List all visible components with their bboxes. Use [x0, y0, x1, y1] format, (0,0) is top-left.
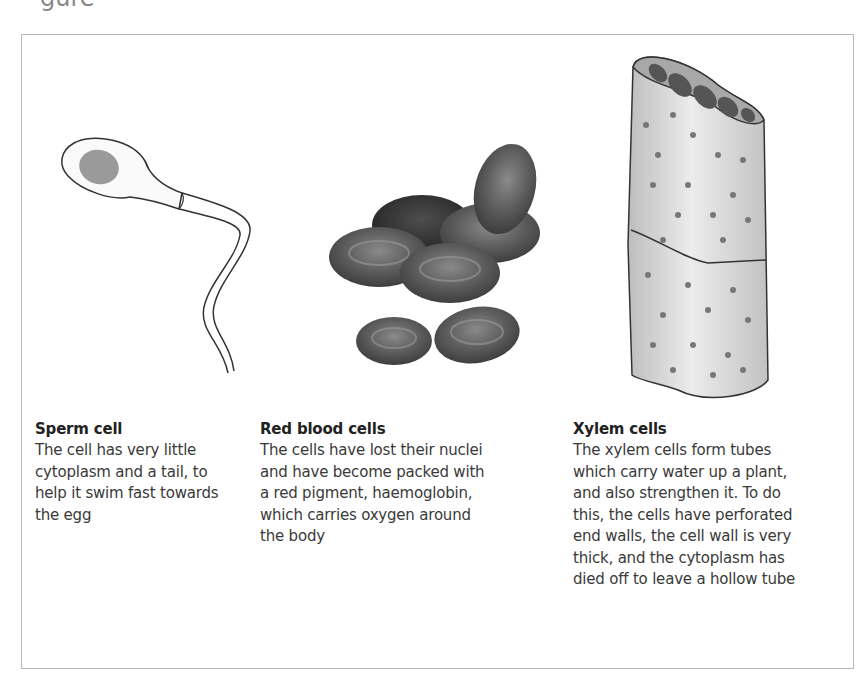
- desc-line: thick, and the cytoplasm has: [573, 548, 853, 570]
- desc-line: the egg: [35, 505, 275, 527]
- desc-line: which carries oxygen around: [260, 505, 560, 527]
- desc-line: this, the cells have perforated: [573, 505, 853, 527]
- desc-line: a red pigment, haemoglobin,: [260, 483, 560, 505]
- desc-line: and have become packed with: [260, 462, 560, 484]
- panel-sperm-cell: Sperm cell The cell has very little cyto…: [35, 418, 275, 526]
- red-blood-cells-illustration: [322, 125, 562, 375]
- clipped-heading: gure: [40, 0, 95, 12]
- panel-title: Xylem cells: [573, 418, 853, 440]
- desc-line: The cells have lost their nuclei: [260, 440, 560, 462]
- panel-description: The xylem cells form tubes which carry w…: [573, 440, 853, 591]
- desc-line: The xylem cells form tubes: [573, 440, 853, 462]
- panel-title: Sperm cell: [35, 418, 275, 440]
- desc-line: and also strengthen it. To do: [573, 483, 853, 505]
- panel-red-blood-cells: Red blood cells The cells have lost thei…: [260, 418, 560, 548]
- panel-title: Red blood cells: [260, 418, 560, 440]
- desc-line: which carry water up a plant,: [573, 462, 853, 484]
- desc-line: The cell has very little: [35, 440, 275, 462]
- desc-line: end walls, the cell wall is very: [573, 526, 853, 548]
- sperm-cell-illustration: [52, 131, 282, 391]
- desc-line: the body: [260, 526, 560, 548]
- panel-description: The cells have lost their nuclei and hav…: [260, 440, 560, 548]
- desc-line: help it swim fast towards: [35, 483, 275, 505]
- xylem-cells-illustration: [618, 45, 788, 405]
- panel-xylem-cells: Xylem cells The xylem cells form tubes w…: [573, 418, 853, 591]
- panel-description: The cell has very little cytoplasm and a…: [35, 440, 275, 526]
- desc-line: died off to leave a hollow tube: [573, 569, 853, 591]
- desc-line: cytoplasm and a tail, to: [35, 462, 275, 484]
- figure-frame: Sperm cell The cell has very little cyto…: [21, 34, 854, 669]
